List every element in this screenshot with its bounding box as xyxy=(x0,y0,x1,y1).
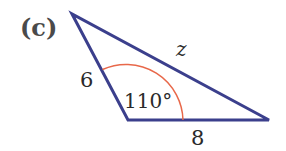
triangle-diagram: (c) 6 110° 8 z xyxy=(0,0,286,151)
side-label-bottom: 8 xyxy=(191,126,204,150)
angle-label: 110° xyxy=(124,89,172,113)
side-label-hypotenuse: z xyxy=(175,37,187,61)
part-label: (c) xyxy=(20,13,57,42)
side-label-left: 6 xyxy=(80,68,93,92)
